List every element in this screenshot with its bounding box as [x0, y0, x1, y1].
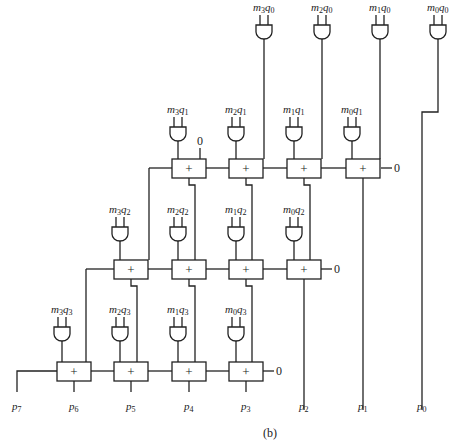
and-gate-icon: [228, 327, 244, 341]
wire: [304, 178, 310, 260]
and-gate-label: m1q1: [283, 103, 304, 117]
array-multiplier-diagram: m3q0m2q0m1q0m0q0m3q1m2q1m1q1m0q1m3q2m2q2…: [0, 0, 457, 447]
carry-zero: 0: [276, 364, 282, 378]
and-gate-icon: [430, 25, 446, 39]
and-gate-label: m0q2: [283, 203, 304, 217]
and-gate-label: m1q3: [167, 303, 188, 317]
and-gate-label: m3q1: [167, 103, 188, 117]
and-gate-label: m2q0: [311, 1, 332, 15]
output-label-p1: p1: [357, 400, 368, 414]
and-gate-icon: [344, 127, 360, 141]
and-gate-icon: [228, 227, 244, 241]
output-label-p4: p4: [183, 400, 194, 414]
and-gate-icon: [54, 327, 70, 341]
and-gate-icon: [170, 327, 186, 341]
adder-plus-symbol: +: [242, 262, 249, 277]
diagram-canvas: m3q0m2q0m1q0m0q0m3q1m2q1m1q1m0q1m3q2m2q2…: [0, 0, 457, 447]
and-gate-label: m3q2: [109, 203, 130, 217]
wire: [246, 279, 252, 362]
wire: [246, 178, 252, 260]
carry-zero: 0: [197, 134, 203, 148]
and-gate-icon: [372, 25, 388, 39]
wire: [189, 178, 195, 260]
and-gate-label: m1q0: [369, 1, 390, 15]
and-gate-icon: [170, 127, 186, 141]
and-gate-icon: [112, 227, 128, 241]
adder-plus-symbol: +: [70, 364, 77, 379]
and-gate-icon: [170, 227, 186, 241]
adder-plus-symbol: +: [185, 161, 192, 176]
and-gate-label: m3q0: [253, 1, 274, 15]
adder-plus-symbol: +: [300, 262, 307, 277]
and-gate-icon: [112, 327, 128, 341]
output-label-p0: p0: [416, 400, 427, 414]
and-gate-label: m2q2: [167, 203, 188, 217]
output-label-p6: p6: [68, 400, 79, 414]
carry-zero: 0: [394, 161, 400, 175]
output-label-p2: p2: [298, 400, 309, 414]
adder-plus-symbol: +: [185, 262, 192, 277]
and-gate-label: m3q3: [51, 303, 72, 317]
output-label-p3: p3: [240, 400, 251, 414]
and-gate-label: m1q2: [225, 203, 246, 217]
output-label-p5: p5: [125, 400, 136, 414]
wire: [131, 279, 137, 362]
adder-plus-symbol: +: [185, 364, 192, 379]
and-gate-label: m0q1: [341, 103, 362, 117]
and-gate-icon: [228, 127, 244, 141]
and-gate-label: m0q3: [225, 303, 246, 317]
and-gate-label: m2q1: [225, 103, 246, 117]
adder-plus-symbol: +: [359, 161, 366, 176]
and-gate-label: m0q0: [427, 1, 448, 15]
and-gate-icon: [256, 25, 272, 39]
figure-caption: (b): [240, 426, 300, 441]
and-gate-icon: [314, 25, 330, 39]
adder-plus-symbol: +: [300, 161, 307, 176]
wire: [422, 39, 438, 410]
carry-zero: 0: [334, 262, 340, 276]
output-label-p7: p7: [11, 400, 22, 414]
adder-plus-symbol: +: [127, 262, 134, 277]
adder-plus-symbol: +: [242, 364, 249, 379]
and-gate-icon: [286, 127, 302, 141]
and-gate-label: m2q3: [109, 303, 130, 317]
adder-plus-symbol: +: [127, 364, 134, 379]
adder-plus-symbol: +: [242, 161, 249, 176]
and-gate-icon: [286, 227, 302, 241]
wire: [189, 279, 195, 362]
wire: [17, 371, 57, 392]
